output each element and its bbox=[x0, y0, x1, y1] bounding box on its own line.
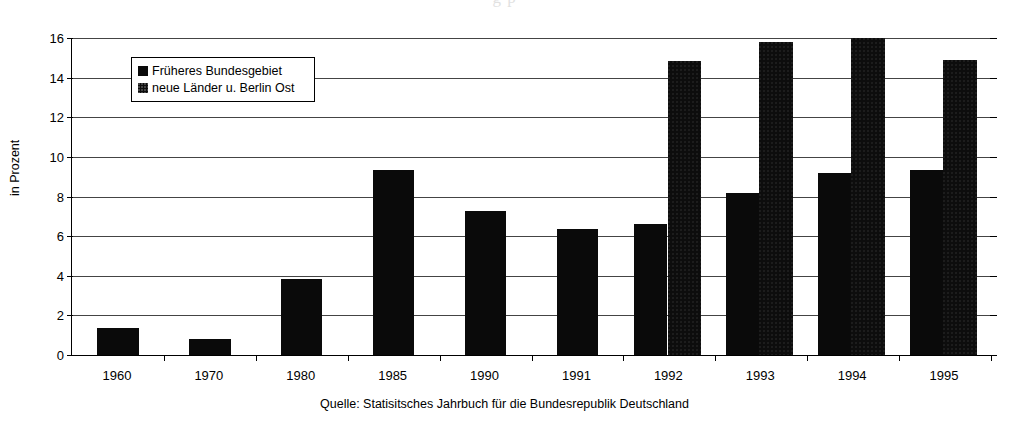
x-axis-tick-label: 1993 bbox=[746, 368, 775, 383]
x-axis-tick-label: 1995 bbox=[930, 368, 959, 383]
bar bbox=[818, 173, 852, 355]
bar bbox=[726, 193, 760, 355]
y-axis-tick-right bbox=[990, 197, 997, 198]
y-axis-tick bbox=[67, 38, 73, 39]
x-axis-tick bbox=[532, 355, 533, 361]
legend-item-label: Früheres Bundesgebiet bbox=[152, 64, 282, 78]
y-axis-tick bbox=[67, 315, 73, 316]
chart-figure: g p in Prozent 0246810121416 19601970198… bbox=[0, 0, 1009, 431]
bar bbox=[634, 224, 668, 355]
solid-black-square-icon bbox=[138, 66, 148, 76]
bar bbox=[668, 61, 702, 355]
legend-item: neue Länder u. Berlin Ost bbox=[138, 79, 308, 96]
y-axis-tick-right bbox=[990, 117, 997, 118]
x-axis-tick-label: 1970 bbox=[194, 368, 223, 383]
x-axis-tick bbox=[807, 355, 808, 361]
bar bbox=[97, 328, 138, 355]
bar bbox=[851, 38, 885, 355]
legend-item: Früheres Bundesgebiet bbox=[138, 62, 308, 79]
dotted-black-square-icon bbox=[138, 83, 148, 93]
y-axis-tick-label: 10 bbox=[50, 149, 64, 164]
y-axis-tick bbox=[67, 236, 73, 237]
y-axis-tick-right bbox=[990, 157, 997, 158]
y-axis-tick-right bbox=[990, 236, 997, 237]
bar bbox=[281, 279, 322, 355]
x-axis-tick bbox=[715, 355, 716, 361]
x-axis-tick bbox=[440, 355, 441, 361]
y-axis-tick-right bbox=[990, 276, 997, 277]
legend-item-label: neue Länder u. Berlin Ost bbox=[152, 81, 294, 95]
y-axis-tick-label: 6 bbox=[57, 229, 64, 244]
y-axis-tick-right bbox=[990, 78, 997, 79]
bar bbox=[759, 42, 793, 355]
y-axis-tick bbox=[67, 276, 73, 277]
x-axis-tick-label: 1985 bbox=[378, 368, 407, 383]
x-axis-tick-label: 1980 bbox=[286, 368, 315, 383]
y-axis-tick bbox=[67, 117, 73, 118]
x-axis-tick bbox=[256, 355, 257, 361]
y-axis-tick-label: 12 bbox=[50, 110, 64, 125]
x-axis-tick bbox=[348, 355, 349, 361]
bar bbox=[465, 211, 506, 355]
y-axis-tick bbox=[67, 157, 73, 158]
y-axis-tick-right bbox=[990, 315, 997, 316]
x-axis-tick bbox=[623, 355, 624, 361]
source-caption: Quelle: Statisitsches Jahrbuch für die B… bbox=[0, 397, 1009, 411]
x-axis-tick bbox=[899, 355, 900, 361]
x-axis-tick-label: 1992 bbox=[654, 368, 683, 383]
y-axis-title: in Prozent bbox=[8, 140, 22, 196]
y-axis-tick-label: 16 bbox=[50, 31, 64, 46]
y-axis-tick-label: 4 bbox=[57, 268, 64, 283]
y-axis-tick-label: 2 bbox=[57, 308, 64, 323]
bar bbox=[943, 60, 977, 355]
x-axis-tick-label: 1960 bbox=[102, 368, 131, 383]
cropped-header-text: g p bbox=[0, 0, 1009, 10]
bar bbox=[373, 170, 414, 355]
y-axis-tick-label: 14 bbox=[50, 70, 64, 85]
y-axis-tick bbox=[67, 78, 73, 79]
x-axis-tick-label: 1994 bbox=[838, 368, 867, 383]
y-axis-tick-right bbox=[990, 38, 997, 39]
bar bbox=[557, 229, 598, 355]
x-axis-tick bbox=[991, 355, 992, 361]
x-axis-tick-label: 1991 bbox=[562, 368, 591, 383]
y-axis-tick bbox=[67, 197, 73, 198]
y-axis-tick bbox=[67, 355, 73, 356]
x-axis-tick bbox=[164, 355, 165, 361]
x-axis-tick-label: 1990 bbox=[470, 368, 499, 383]
y-axis-tick-label: 0 bbox=[57, 348, 64, 363]
bar bbox=[910, 170, 944, 355]
y-axis-tick-label: 8 bbox=[57, 189, 64, 204]
bar bbox=[189, 339, 230, 355]
chart-legend: Früheres Bundesgebiet neue Länder u. Ber… bbox=[131, 57, 315, 102]
